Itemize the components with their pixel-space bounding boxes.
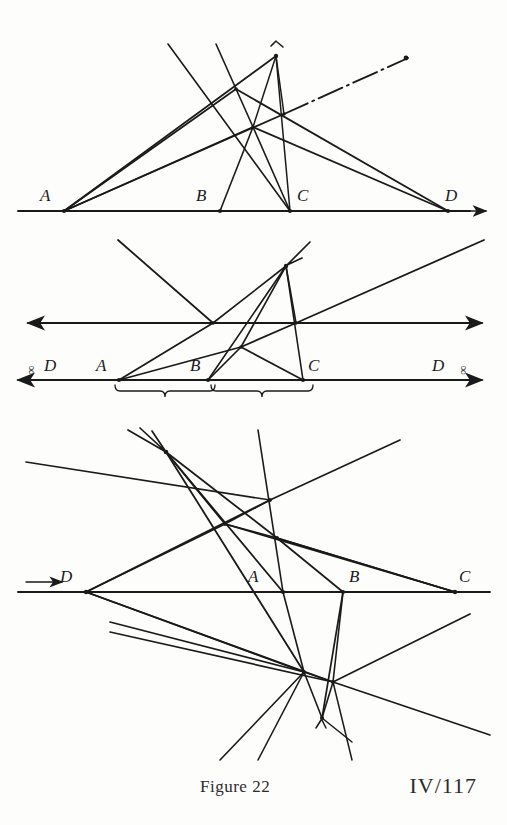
label-A-middle: A (96, 356, 106, 376)
line-D-to-node1 (236, 89, 448, 211)
diagram-middle-lines (18, 240, 484, 397)
line-B-lowervertex-bottom (322, 592, 343, 718)
label-infinity-right-middle: ∞ (458, 362, 467, 378)
node-bottom-2 (268, 498, 272, 502)
line-node2-upper-right-middle (296, 240, 484, 323)
brace-BC-middle (211, 385, 313, 397)
diagram-top-lines (18, 41, 486, 213)
infinity-glyph-left: ∞ (23, 365, 39, 374)
line-D-node2-bottom (86, 500, 270, 592)
label-A-top: A (40, 186, 50, 206)
label-D-right-middle: D (432, 356, 444, 376)
label-D-top: D (445, 186, 457, 206)
line-apex-node3-middle (241, 266, 286, 347)
label-A-bottom: A (248, 567, 258, 587)
infinity-glyph-right: ∞ (455, 365, 471, 374)
line-D-area-to-lowernode1 (110, 622, 304, 672)
line-apex-to-node3 (253, 56, 276, 127)
figure-caption: Figure 22 (200, 777, 270, 797)
line-upperleft2-to-node3 (216, 44, 253, 127)
label-B-bottom: B (349, 567, 359, 587)
line-lowernode2-to-right (333, 682, 490, 735)
label-D-bottom: D (60, 567, 72, 587)
line-node2-upper-right-bottom (270, 440, 400, 500)
lower-vertex-tick-bottom (316, 720, 326, 728)
line-node3-B-bottom (277, 538, 343, 592)
node-bottom-5 (331, 680, 335, 684)
apex-top (274, 54, 278, 58)
node-bottom-3 (275, 536, 279, 540)
line-A-to-lowernode-bottom (283, 592, 304, 672)
label-D-left-middle: D (44, 356, 56, 376)
figure-drawing (0, 0, 507, 825)
node-middle-3 (239, 345, 243, 349)
line-A-to-node2 (64, 114, 284, 211)
line-apex-node1-middle (213, 266, 286, 323)
page-reference: IV/117 (409, 773, 477, 799)
line-V-lower-bottom (166, 452, 304, 672)
apex-arrow-middle (287, 242, 310, 265)
label-C-top: C (297, 186, 308, 206)
line-A-node3-middle (119, 347, 241, 380)
line-ul-to-node1-middle (118, 240, 213, 323)
line-D-lower2-bottom (86, 592, 333, 682)
dash-dot-ray-endpoint (404, 56, 409, 61)
diagram-bottom-lines (18, 428, 490, 760)
line-lowernode2-to-upperright (333, 614, 470, 682)
label-C-bottom: C (459, 567, 470, 587)
vertex-arrow-bottom (128, 428, 166, 452)
label-B-top: B (196, 186, 206, 206)
line-node3-node2-middle (241, 323, 296, 347)
node-middle-2 (294, 321, 298, 325)
line-B-lowernode2-bottom (333, 592, 343, 682)
label-C-middle: C (308, 356, 319, 376)
node-bottom-4 (302, 670, 306, 674)
dash-dot-ray-top (284, 58, 408, 114)
line-bottomleft-ray2 (258, 672, 304, 760)
brace-AB-middle (115, 385, 215, 397)
figure-page: A B C D ∞ D A B C D ∞ D A B C Figure 22 … (0, 0, 507, 825)
line-apex-node2-middle (286, 266, 296, 323)
line-node3-C-bottom (277, 538, 455, 592)
apex-middle (284, 264, 288, 268)
caption-row: Figure 22 IV/117 (0, 777, 507, 811)
line-node3-C-middle (241, 347, 303, 380)
line-apex-to-C (276, 56, 290, 211)
node-top-3 (251, 125, 255, 129)
node-middle-1 (211, 321, 215, 325)
line-D-to-node3 (253, 127, 448, 211)
label-B-middle: B (190, 356, 200, 376)
line-bottomleft-ray1 (220, 672, 304, 760)
node-top-2 (282, 112, 286, 116)
label-infinity-left-middle: ∞ (26, 362, 35, 378)
upper-vertex-bottom (164, 450, 169, 455)
node-bottom-1 (223, 522, 227, 526)
node-top-1 (234, 87, 238, 91)
apex-tick-mark-top (271, 41, 283, 47)
line-A-to-apex (64, 56, 276, 211)
line-left-to-node2-bottom (26, 462, 270, 500)
line-lowernode2-downright (333, 682, 352, 760)
line-lowervertex-downright (322, 718, 352, 742)
